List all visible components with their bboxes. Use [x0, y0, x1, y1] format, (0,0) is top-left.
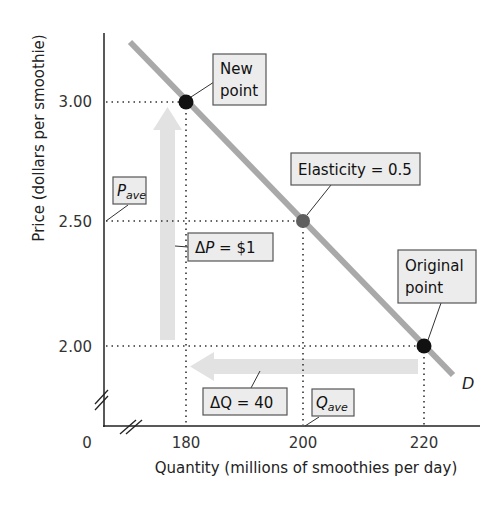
q-ave-label: Qave [312, 389, 354, 416]
original-point-marker [417, 339, 432, 354]
demand-curve [130, 42, 453, 375]
p-ave-label: Pave [113, 177, 146, 204]
x-tick-200: 200 [289, 434, 318, 452]
new-point-label: New point [213, 54, 266, 105]
y-axis-title: Price (dollars per smoothie) [30, 34, 48, 241]
curve-label-d: D [462, 374, 474, 393]
svg-text:ΔQ = 40: ΔQ = 40 [210, 394, 273, 412]
x-axis-title: Quantity (millions of smoothies per day) [155, 459, 458, 477]
svg-text:ΔP = $1: ΔP = $1 [195, 239, 256, 257]
y-tick-2.50: 2.50 [59, 213, 92, 231]
elasticity-label: Elasticity = 0.5 [291, 153, 420, 185]
original-point-label: Original point [398, 250, 476, 303]
y-tick-3.00: 3.00 [59, 93, 92, 111]
delta-p-label: ΔP = $1 [188, 233, 273, 261]
axis-break-icons [95, 390, 142, 434]
y-tick-2.00: 2.00 [59, 338, 92, 356]
x-tick-180: 180 [172, 434, 201, 452]
x-tick-220: 220 [410, 434, 439, 452]
svg-text:Original: Original [405, 257, 464, 275]
elasticity-chart: 3.00 2.50 2.00 0 180 200 220 Quantity (m… [0, 0, 504, 509]
svg-text:Elasticity = 0.5: Elasticity = 0.5 [298, 161, 412, 179]
svg-text:point: point [405, 279, 443, 297]
new-point-marker [179, 95, 194, 110]
delta-p-arrow [153, 107, 182, 340]
x-tick-0: 0 [82, 434, 92, 452]
svg-text:point: point [220, 82, 258, 100]
svg-text:New: New [220, 60, 253, 78]
delta-q-arrow [190, 352, 418, 381]
delta-q-label: ΔQ = 40 [203, 388, 287, 415]
guide-lines [106, 102, 424, 425]
midpoint-marker [296, 214, 310, 228]
